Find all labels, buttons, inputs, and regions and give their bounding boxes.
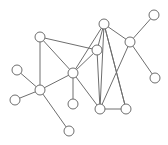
graph-node — [10, 95, 20, 105]
graph-node — [150, 73, 160, 83]
graph-figure — [0, 0, 168, 145]
graph-node — [12, 65, 22, 75]
graph-edge — [40, 90, 69, 131]
node-layer — [10, 10, 160, 136]
graph-node — [68, 68, 78, 78]
graph-node — [125, 37, 135, 47]
edge-layer — [15, 15, 155, 131]
graph-node — [64, 126, 74, 136]
graph-node — [92, 45, 102, 55]
graph-node — [99, 19, 109, 29]
graph-edge — [40, 37, 73, 73]
graph-edge — [100, 42, 130, 109]
graph-edge — [130, 42, 155, 78]
graph-node — [35, 85, 45, 95]
graph-edge — [40, 73, 73, 90]
graph-node — [149, 10, 159, 20]
graph-node — [121, 104, 131, 114]
graph-edge — [97, 50, 100, 109]
graph-node — [35, 32, 45, 42]
graph-node — [68, 99, 78, 109]
graph-node — [95, 104, 105, 114]
graph-canvas — [0, 0, 168, 145]
